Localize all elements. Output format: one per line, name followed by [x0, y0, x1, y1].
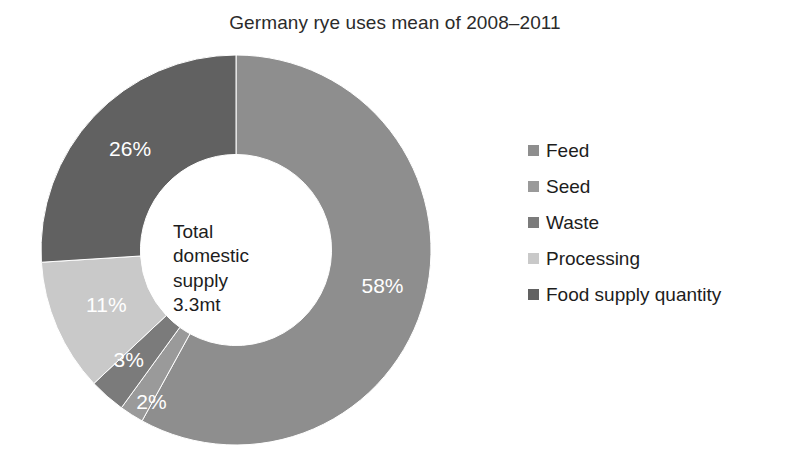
legend-swatch-icon — [528, 253, 539, 264]
slice-data-label: 11% — [86, 293, 126, 316]
donut-chart-figure: Germany rye uses mean of 2008–2011 58%2%… — [0, 0, 790, 472]
slice-data-label: 26% — [109, 137, 151, 160]
slice-data-label: 3% — [113, 348, 143, 371]
legend-swatch-icon — [528, 217, 539, 228]
legend-label: Processing — [546, 249, 640, 268]
center-line-2: domestic — [173, 244, 303, 268]
center-line-3: supply — [173, 269, 303, 293]
slice-data-label: 58% — [362, 274, 404, 297]
center-line-1: Total — [173, 220, 303, 244]
legend-label: Waste — [546, 213, 599, 232]
legend-item-food-supply-quantity[interactable]: Food supply quantity — [528, 276, 778, 312]
legend-item-waste[interactable]: Waste — [528, 204, 778, 240]
legend-label: Feed — [546, 141, 589, 160]
legend-swatch-icon — [528, 145, 539, 156]
legend-label: Seed — [546, 177, 590, 196]
legend-item-feed[interactable]: Feed — [528, 132, 778, 168]
donut-plot-area: 58%2%3%11%26% Total domestic supply 3.3m… — [38, 52, 434, 448]
legend-label: Food supply quantity — [546, 285, 721, 304]
legend-swatch-icon — [528, 289, 539, 300]
legend-item-seed[interactable]: Seed — [528, 168, 778, 204]
slice-data-label: 2% — [136, 390, 166, 413]
chart-title: Germany rye uses mean of 2008–2011 — [0, 12, 790, 34]
chart-legend: Feed Seed Waste Processing Food supply q… — [528, 132, 778, 312]
legend-swatch-icon — [528, 181, 539, 192]
legend-item-processing[interactable]: Processing — [528, 240, 778, 276]
center-total-annotation: Total domestic supply 3.3mt — [173, 220, 303, 317]
center-line-4: 3.3mt — [173, 293, 303, 317]
